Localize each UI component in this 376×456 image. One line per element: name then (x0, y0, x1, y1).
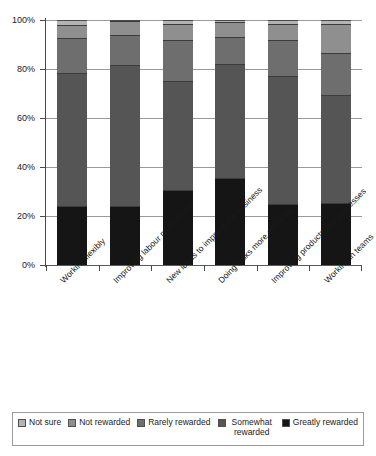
bar-segment[interactable] (215, 64, 245, 178)
bar-segment[interactable] (57, 25, 87, 38)
legend-label: Rarely rewarded (148, 417, 210, 427)
x-tick-mark (309, 265, 310, 271)
y-tick-mark (40, 20, 46, 21)
legend-label: Not sure (29, 417, 61, 427)
bar-segment[interactable] (57, 73, 87, 207)
legend-swatch-icon (218, 419, 226, 427)
legend-label: Somewhat rewarded (229, 417, 275, 437)
x-axis-category-labels: Working flexiblyImproving labour product… (0, 272, 376, 404)
bar-segment[interactable] (163, 40, 193, 82)
bar-segment[interactable] (57, 38, 87, 72)
y-tick-label: 40% (17, 163, 35, 172)
legend-label: Not rewarded (79, 417, 130, 427)
legend-row: Not sureNot rewardedRarely rewardedSomew… (18, 417, 358, 437)
legend-item[interactable]: Rarely rewarded (137, 417, 210, 427)
legend-swatch-icon (18, 419, 26, 427)
y-tick-mark (40, 69, 46, 70)
bar-segment[interactable] (110, 65, 140, 206)
legend-label: Greatly rewarded (293, 417, 358, 427)
x-axis-ticks (46, 265, 362, 272)
y-axis: 0%20%40%60%80%100% (0, 0, 40, 272)
y-tick-label: 80% (17, 65, 35, 74)
bar-segment[interactable] (110, 35, 140, 66)
y-tick-label: 20% (17, 212, 35, 221)
bar-segment[interactable] (268, 40, 298, 77)
bar-segment[interactable] (215, 22, 245, 37)
legend-item[interactable]: Not sure (18, 417, 61, 427)
legend-item[interactable]: Somewhat rewarded (218, 417, 275, 437)
bar-segment[interactable] (268, 24, 298, 40)
bar-segment[interactable] (321, 24, 351, 53)
legend-item[interactable]: Greatly rewarded (282, 417, 358, 427)
x-tick-mark (257, 265, 258, 271)
y-tick-label: 0% (22, 261, 35, 270)
bar-segment[interactable] (321, 53, 351, 95)
x-tick-mark (99, 265, 100, 271)
legend-swatch-icon (282, 419, 290, 427)
bars-layer (46, 20, 362, 265)
bar-1[interactable] (57, 20, 87, 265)
y-tick-mark (40, 118, 46, 119)
y-tick-mark (40, 265, 46, 266)
y-tick-mark (40, 216, 46, 217)
stacked-bar-chart: 0%20%40%60%80%100% Working flexiblyImpro… (0, 0, 376, 456)
bar-segment[interactable] (163, 81, 193, 190)
bar-segment[interactable] (215, 37, 245, 64)
y-tick-mark (40, 167, 46, 168)
legend-item[interactable]: Not rewarded (68, 417, 130, 427)
y-tick-label: 60% (17, 114, 35, 123)
x-tick-mark (361, 265, 362, 271)
bar-2[interactable] (110, 20, 140, 265)
legend-swatch-icon (68, 419, 76, 427)
x-tick-mark (151, 265, 152, 271)
x-tick-mark (46, 265, 47, 271)
bar-segment[interactable] (321, 95, 351, 203)
bar-segment[interactable] (268, 76, 298, 203)
chart-legend: Not sureNot rewardedRarely rewardedSomew… (12, 412, 364, 446)
x-tick-mark (204, 265, 205, 271)
bar-segment[interactable] (110, 21, 140, 34)
bar-segment[interactable] (163, 24, 193, 40)
y-tick-label: 100% (12, 16, 35, 25)
legend-swatch-icon (137, 419, 145, 427)
